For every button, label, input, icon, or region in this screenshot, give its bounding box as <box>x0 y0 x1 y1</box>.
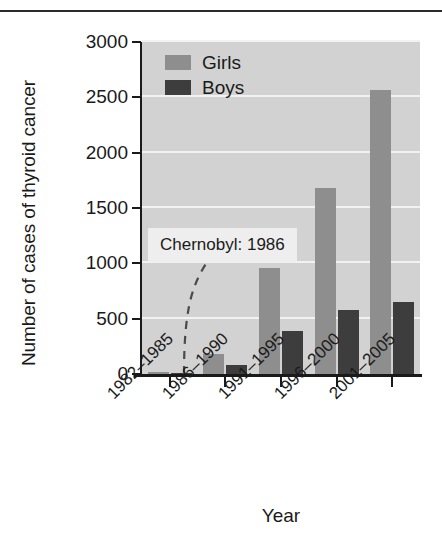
y-axis-tick <box>132 207 141 209</box>
y-axis-tick <box>132 262 141 264</box>
y-axis-tick <box>132 318 141 320</box>
chernobyl-annotation-label: Chernobyl: 1986 <box>160 235 285 254</box>
y-axis-tick-label: 2000 <box>8 143 128 162</box>
plot-area: Chernobyl: 1986 GirlsBoys <box>142 42 420 374</box>
y-axis-tick-label: 2500 <box>8 87 128 106</box>
x-axis-tick <box>391 376 393 387</box>
legend-swatch-boys <box>165 80 191 95</box>
legend-item-girls: Girls <box>165 50 305 75</box>
chernobyl-annotation: Chernobyl: 1986 <box>148 228 297 262</box>
y-axis-tick-label: 500 <box>8 309 128 328</box>
y-axis-tick <box>132 96 141 98</box>
thyroid-cancer-bar-chart: Number of cases of thyroid cancer Cherno… <box>0 14 442 544</box>
y-axis-tick-label: 0 <box>8 364 128 383</box>
legend-swatch-girls <box>165 55 191 70</box>
y-axis-tick <box>132 152 141 154</box>
y-axis-tick-label: 1500 <box>8 198 128 217</box>
legend-label-girls: Girls <box>202 53 241 72</box>
y-axis-tick-label: 1000 <box>8 253 128 272</box>
x-axis-title: Year <box>142 506 420 525</box>
chart-legend: GirlsBoys <box>165 50 305 100</box>
legend-label-boys: Boys <box>202 78 244 97</box>
y-axis-tick <box>132 41 141 43</box>
y-axis-tick-label: 3000 <box>8 32 128 51</box>
y-axis-line <box>140 42 142 376</box>
legend-item-boys: Boys <box>165 75 305 100</box>
header-divider <box>0 10 442 12</box>
